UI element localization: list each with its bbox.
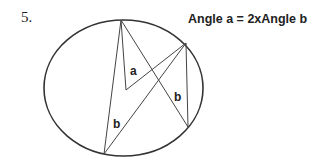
chord-right-bottomright: [186, 43, 188, 127]
circle-outline: [44, 20, 203, 156]
angle-label-b-left: b: [113, 117, 120, 131]
angle-label-a: a: [130, 64, 137, 78]
radius-top: [121, 20, 126, 90]
angle-label-b-right: b: [174, 90, 181, 104]
circle-theorem-diagram: a b b: [0, 0, 319, 165]
